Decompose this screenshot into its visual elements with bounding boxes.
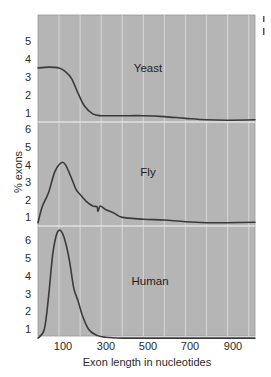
y-tick-human-1: 1	[25, 323, 31, 335]
y-tick-yeast-1: 1	[25, 107, 31, 119]
y-tick-fly-4: 4	[25, 159, 31, 171]
y-tick-yeast-4: 4	[25, 53, 31, 65]
panel-label-yeast: Yeast	[134, 62, 163, 74]
y-tick-human-5: 5	[25, 252, 31, 264]
y-tick-fly-3: 3	[25, 176, 31, 188]
y-tick-human-4: 4	[25, 270, 31, 282]
x-axis-title: Exon length in nucleotides	[83, 356, 212, 368]
x-tick-900: 900	[224, 340, 242, 352]
x-tick-700: 700	[181, 340, 199, 352]
y-tick-labels: 12345123456123456	[25, 35, 31, 335]
exon-length-chart: Yeast Fly Human 12345123456123456 % exon…	[0, 0, 271, 377]
y-tick-fly-5: 5	[25, 141, 31, 153]
y-tick-fly-2: 2	[25, 194, 31, 206]
y-tick-yeast-3: 3	[25, 71, 31, 83]
y-tick-human-3: 3	[25, 288, 31, 300]
y-tick-yeast-2: 2	[25, 89, 31, 101]
x-tick-500: 500	[139, 340, 157, 352]
y-axis-title: % exons	[12, 150, 24, 193]
y-tick-human-2: 2	[25, 305, 31, 317]
y-tick-human-6: 6	[25, 234, 31, 246]
y-tick-yeast-5: 5	[25, 35, 31, 47]
edge-mark	[263, 16, 265, 22]
panel-label-human: Human	[131, 275, 168, 287]
y-tick-fly-6: 6	[25, 123, 31, 135]
y-tick-fly-1: 1	[25, 211, 31, 223]
edge-mark	[263, 28, 265, 35]
x-tick-100: 100	[54, 340, 72, 352]
panel-label-fly: Fly	[140, 166, 156, 178]
x-tick-300: 300	[97, 340, 115, 352]
